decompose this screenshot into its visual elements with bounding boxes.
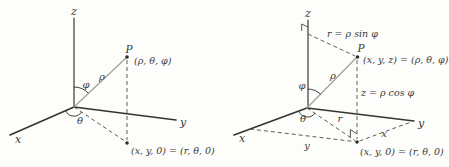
right-x-axis-label: x	[239, 132, 246, 145]
right-phi-label: φ	[298, 80, 305, 91]
left-z-axis-label: z	[70, 5, 77, 18]
left-theta-label: θ	[77, 115, 83, 126]
right-diagram: z y x P (x, y, z) = (ρ, θ, φ) r = ρ sin …	[234, 7, 449, 157]
left-base-point-dot	[125, 141, 129, 145]
right-zcos-equation-label: z = ρ cos φ	[360, 87, 415, 98]
left-point-P-dot	[125, 55, 129, 59]
left-x-axis-label: x	[15, 133, 22, 146]
figure-svg: z y x P (ρ, θ, φ) ρ φ θ (x, y, 0) = (r, …	[0, 0, 449, 167]
left-x-axis	[10, 107, 74, 135]
right-r-label: r	[338, 113, 344, 124]
right-x-axis	[234, 108, 307, 135]
right-point-P-label: P	[356, 42, 365, 54]
right-rho-line	[307, 58, 357, 109]
right-yside-dashed-line	[250, 129, 355, 142]
right-angle-mark-z-axis	[302, 24, 308, 31]
left-phi-label: φ	[82, 79, 89, 90]
right-rsin-equation-label: r = ρ sin φ	[327, 28, 378, 39]
right-point-coords-label: (x, y, z) = (ρ, θ, φ)	[363, 54, 449, 65]
right-yside-label: y	[303, 140, 310, 151]
right-xside-label: x	[381, 128, 387, 139]
left-diagram: z y x P (ρ, θ, φ) ρ φ θ (x, y, 0) = (r, …	[10, 5, 215, 156]
right-rho-label: ρ	[329, 70, 336, 81]
left-rho-label: ρ	[98, 71, 105, 82]
right-phi-arc	[308, 89, 321, 94]
right-angle-mark-base	[350, 130, 357, 138]
right-z-axis-label: z	[304, 7, 311, 20]
right-point-P-dot	[356, 55, 360, 59]
spherical-coordinates-figure: z y x P (ρ, θ, φ) ρ φ θ (x, y, 0) = (r, …	[0, 0, 449, 167]
right-base-point-dot	[355, 140, 359, 144]
right-y-axis-label: y	[417, 117, 425, 130]
right-theta-label: θ	[300, 113, 306, 124]
right-base-point-label: (x, y, 0) = (r, θ, 0)	[360, 146, 444, 157]
left-y-axis-label: y	[179, 116, 187, 129]
left-y-axis	[74, 107, 176, 120]
right-y-axis	[307, 108, 414, 121]
left-point-coords-label: (ρ, θ, φ)	[134, 55, 172, 66]
left-point-P-label: P	[124, 43, 133, 55]
left-base-point-label: (x, y, 0) = (r, θ, 0)	[131, 145, 215, 156]
